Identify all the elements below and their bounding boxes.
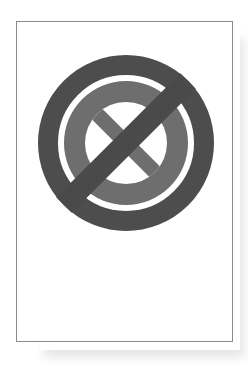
stage [0,0,248,365]
prohibited-cancel-icon [0,0,248,365]
